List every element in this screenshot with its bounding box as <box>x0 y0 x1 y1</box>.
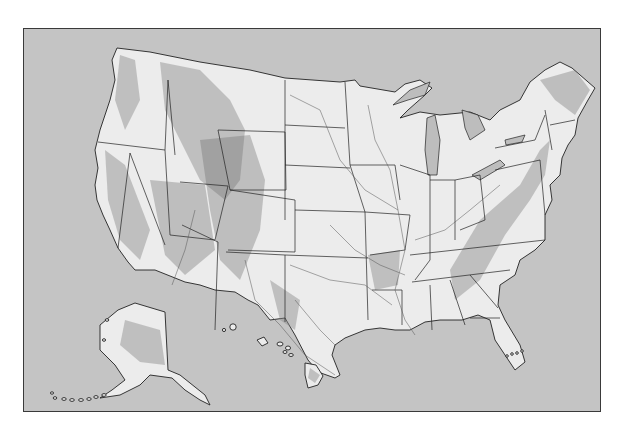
alaska <box>50 303 210 405</box>
us-relief-map <box>0 0 625 437</box>
